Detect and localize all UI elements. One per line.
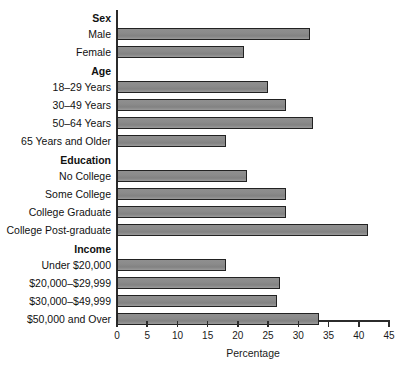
x-axis-tick-label: 40 <box>346 330 372 341</box>
category-label: Some College <box>45 187 111 201</box>
x-axis-tick-label: 45 <box>376 330 402 341</box>
category-label: Male <box>88 27 111 41</box>
bar-row: Female <box>0 45 405 59</box>
bar-row: 18–29 Years <box>0 80 405 94</box>
bar-chart: SexMaleFemaleAge18–29 Years30–49 Years50… <box>0 0 405 367</box>
x-axis-tick <box>388 321 390 327</box>
category-label: College Post-graduate <box>7 223 111 237</box>
x-axis-tick <box>328 321 330 327</box>
x-axis-tick <box>146 321 148 327</box>
bar <box>117 81 268 93</box>
category-label: Female <box>76 45 111 59</box>
x-axis-tick <box>298 321 300 327</box>
bar-row: 50–64 Years <box>0 116 405 130</box>
bar-row: 65 Years and Older <box>0 134 405 148</box>
x-axis-tick-label: 0 <box>104 330 130 341</box>
x-axis-title: Percentage <box>117 347 389 359</box>
bar <box>117 99 286 111</box>
group-label: Sex <box>92 11 111 25</box>
bar <box>117 117 313 129</box>
x-axis-tick <box>237 321 239 327</box>
x-axis-tick <box>116 321 118 327</box>
x-axis-tick-label: 35 <box>316 330 342 341</box>
category-label: $20,000–$29,999 <box>29 276 111 290</box>
bar <box>117 46 244 58</box>
category-label: 30–49 Years <box>53 98 111 112</box>
bar-row: Some College <box>0 187 405 201</box>
bar-row: 30–49 Years <box>0 98 405 112</box>
group-heading-row: Sex <box>0 11 405 25</box>
bar-row: $20,000–$29,999 <box>0 276 405 290</box>
bar-row: Male <box>0 27 405 41</box>
group-label: Education <box>60 153 111 167</box>
bar-row: College Graduate <box>0 205 405 219</box>
x-axis-tick-label: 30 <box>285 330 311 341</box>
bar <box>117 170 247 182</box>
bar <box>117 28 310 40</box>
bar <box>117 206 286 218</box>
category-label: 50–64 Years <box>53 116 111 130</box>
category-label: $50,000 and Over <box>27 312 111 326</box>
x-axis-tick-label: 5 <box>134 330 160 341</box>
x-axis-tick-label: 15 <box>195 330 221 341</box>
x-axis-tick-label: 25 <box>255 330 281 341</box>
x-axis-tick <box>177 321 179 327</box>
category-label: 18–29 Years <box>53 80 111 94</box>
category-label: 65 Years and Older <box>21 134 111 148</box>
bar <box>117 224 368 236</box>
category-label: Under $20,000 <box>42 258 111 272</box>
bar <box>117 259 226 271</box>
bar-row: No College <box>0 169 405 183</box>
category-label: No College <box>59 169 111 183</box>
group-heading-row: Education <box>0 153 405 167</box>
group-heading-row: Income <box>0 242 405 256</box>
category-label: $30,000–$49,999 <box>29 294 111 308</box>
x-axis-tick-label: 20 <box>225 330 251 341</box>
bar-row: $50,000 and Over <box>0 312 405 326</box>
x-axis-tick <box>358 321 360 327</box>
bar <box>117 188 286 200</box>
bar-row: College Post-graduate <box>0 223 405 237</box>
category-label: College Graduate <box>29 205 111 219</box>
x-axis-tick <box>267 321 269 327</box>
bar <box>117 295 277 307</box>
group-label: Income <box>74 242 111 256</box>
bar <box>117 135 226 147</box>
bar-row: Under $20,000 <box>0 258 405 272</box>
x-axis-tick <box>207 321 209 327</box>
bar <box>117 277 280 289</box>
group-heading-row: Age <box>0 64 405 78</box>
group-label: Age <box>91 64 111 78</box>
x-axis-tick-label: 10 <box>164 330 190 341</box>
bar-row: $30,000–$49,999 <box>0 294 405 308</box>
